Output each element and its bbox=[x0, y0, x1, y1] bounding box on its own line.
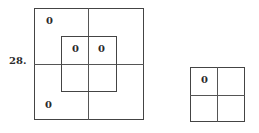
small-horizontal-divider bbox=[190, 95, 245, 96]
cell-outer-bottom-left: 0 bbox=[45, 100, 52, 110]
cell-inner-top-left: 0 bbox=[72, 44, 79, 54]
cell-outer-top-left: 0 bbox=[46, 16, 53, 26]
cell-inner-top-right: 0 bbox=[98, 44, 105, 54]
problem-number-label: 28. bbox=[9, 56, 26, 66]
small-cell-top-left: 0 bbox=[201, 75, 208, 85]
inner-square bbox=[61, 36, 117, 92]
